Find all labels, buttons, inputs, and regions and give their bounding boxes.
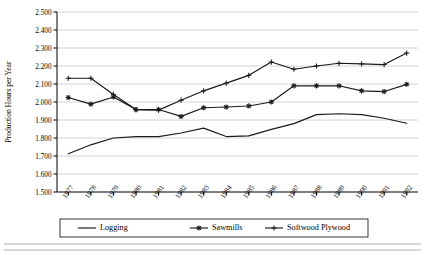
ytick-label: 2.400 (35, 27, 52, 35)
series-softwood-plywood (66, 50, 410, 112)
legend-label: Logging (100, 223, 128, 232)
ytick-label: 2.000 (35, 99, 52, 107)
series-line (68, 84, 406, 116)
chart-container: 1.5001.6001.7001.8001.9002.0002.1002.200… (0, 0, 425, 255)
ytick-label: 2.200 (35, 63, 52, 71)
ytick-label: 1.600 (35, 171, 52, 179)
y-axis-title: Production Hours per Year (4, 61, 13, 142)
axis-title-group: Production Hours per Year (4, 61, 13, 142)
legend-label: Softwood Plywood (287, 223, 350, 232)
ytick-label: 1.800 (35, 135, 52, 143)
series-line (68, 53, 406, 110)
x-axis: 1977197819791980198119821983198419851986… (57, 183, 418, 200)
chart-legend: LoggingSawmillsSoftwood Plywood (60, 219, 368, 237)
footer-rules (4, 244, 421, 250)
ytick-label: 2.100 (35, 81, 52, 89)
ytick-label: 1.700 (35, 153, 52, 161)
ytick-label: 2.300 (35, 45, 52, 53)
series-sawmills (66, 82, 410, 119)
line-chart: 1.5001.6001.7001.8001.9002.0002.1002.200… (0, 0, 425, 255)
ytick-label: 2.500 (35, 9, 52, 17)
legend-label: Sawmills (212, 223, 242, 232)
ytick-label: 1.900 (35, 117, 52, 125)
ytick-label: 1.500 (35, 189, 52, 197)
